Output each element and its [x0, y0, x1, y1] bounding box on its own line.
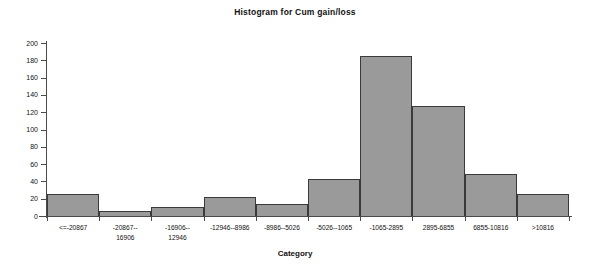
x-axis-category-label: -1065-2895 — [360, 223, 412, 242]
x-axis-tick-labels: <=-20867-20867-- 16906-16906-- 12946-129… — [47, 223, 569, 242]
bar-slot — [99, 43, 151, 216]
y-axis-tick-label: 180 — [12, 57, 38, 64]
x-axis-tick — [204, 216, 205, 221]
x-axis-category-label: 6855-10816 — [465, 223, 517, 242]
bar-slot — [465, 43, 517, 216]
x-axis-tick — [517, 216, 518, 221]
y-axis-tick — [41, 147, 46, 148]
histogram-bar — [204, 197, 256, 216]
bar-slot — [204, 43, 256, 216]
x-axis-category-label: -20867-- 16906 — [99, 223, 151, 242]
y-axis-tick — [41, 112, 46, 113]
x-axis-tick — [360, 216, 361, 221]
y-axis-tick — [41, 43, 46, 44]
x-axis-ticks — [47, 216, 569, 221]
x-axis-tick — [308, 216, 309, 221]
y-axis-tick-label: 100 — [12, 126, 38, 133]
x-axis-tick — [256, 216, 257, 221]
bar-series — [47, 43, 569, 216]
y-axis-tick-label: 80 — [12, 143, 38, 150]
y-axis-tick — [41, 60, 46, 61]
y-axis-tick-label: 200 — [12, 40, 38, 47]
x-axis-tick — [569, 216, 570, 221]
histogram-bar — [256, 204, 308, 216]
x-axis-category-label: -8986--5026 — [256, 223, 308, 242]
x-axis-title: Category — [0, 249, 590, 258]
x-axis-category-label: <=-20867 — [47, 223, 99, 242]
x-axis-category-label: >10816 — [517, 223, 569, 242]
y-axis-tick — [41, 78, 46, 79]
x-axis-category-label: -12946--8986 — [204, 223, 256, 242]
y-axis-tick — [41, 199, 46, 200]
histogram-bar — [151, 207, 203, 216]
bar-slot — [151, 43, 203, 216]
x-axis-category-label: -5026--1065 — [308, 223, 360, 242]
x-axis-tick — [47, 216, 48, 221]
x-axis-tick — [412, 216, 413, 221]
histogram-bar — [308, 179, 360, 216]
histogram-chart: Histogram for Cum gain/loss 020406080100… — [0, 0, 590, 265]
histogram-bar — [412, 106, 464, 216]
bar-slot — [308, 43, 360, 216]
y-axis-tick — [41, 216, 46, 217]
y-axis-tick-label: 60 — [12, 161, 38, 168]
y-axis-tick-label: 160 — [12, 74, 38, 81]
x-axis-tick — [151, 216, 152, 221]
histogram-bar — [465, 174, 517, 216]
y-axis-tick — [41, 181, 46, 182]
bar-slot — [47, 43, 99, 216]
y-axis-tick-label: 20 — [12, 195, 38, 202]
y-axis-tick — [41, 164, 46, 165]
bar-slot — [412, 43, 464, 216]
bar-slot — [517, 43, 569, 216]
bar-slot — [256, 43, 308, 216]
y-axis-tick-label: 120 — [12, 109, 38, 116]
x-axis-category-label: 2895-6855 — [412, 223, 464, 242]
x-axis-tick — [465, 216, 466, 221]
chart-title: Histogram for Cum gain/loss — [0, 7, 590, 17]
x-axis-category-label: -16906-- 12946 — [151, 223, 203, 242]
histogram-bar — [47, 194, 99, 216]
histogram-bar — [517, 194, 569, 216]
histogram-bar — [360, 56, 412, 216]
y-axis-tick — [41, 95, 46, 96]
y-axis-tick-label: 140 — [12, 91, 38, 98]
y-axis-tick-label: 40 — [12, 178, 38, 185]
x-axis-tick — [99, 216, 100, 221]
y-axis-tick — [41, 130, 46, 131]
bar-slot — [360, 43, 412, 216]
y-axis-tick-label: 0 — [12, 213, 38, 220]
